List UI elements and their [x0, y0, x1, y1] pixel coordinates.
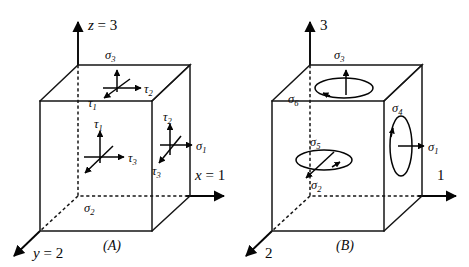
axis1-label: 1: [437, 167, 445, 183]
z-axis-label: z = 3: [87, 17, 117, 33]
sigma6-label-b: σ6: [288, 92, 299, 108]
caption-b: (B): [336, 238, 354, 254]
axis2-label: 2: [265, 245, 273, 261]
tau3-label-a-front: τ3: [128, 151, 137, 167]
x-axis-label: x = 1: [194, 167, 225, 183]
sigma3-label-b: σ3: [334, 48, 344, 64]
axis3-label: 3: [320, 17, 328, 33]
tau2-label-a: τ2: [144, 82, 153, 98]
sigma4-label-b: σ4: [392, 101, 403, 117]
tau3-label-a-right: τ3: [152, 164, 161, 180]
stress-cube-figure: z = 3 x = 1 y = 2 σ3 τ2 τ1 τ1 τ3 τ2 τ3: [0, 0, 469, 267]
sigma5-label-b: σ5: [310, 135, 320, 151]
label-canvas: z = 3 x = 1 y = 2 σ3 τ2 τ1 τ1 τ3 τ2 τ3: [0, 0, 469, 267]
sigma2-label-a: σ2: [84, 201, 95, 217]
sigma1-label-b: σ1: [428, 140, 438, 156]
caption-a: (A): [103, 238, 121, 254]
sigma3-label-a: σ3: [105, 48, 115, 64]
tau2-label-a-right: τ2: [163, 110, 172, 126]
sigma1-label-a: σ1: [196, 139, 206, 155]
y-axis-label: y = 2: [31, 245, 63, 261]
sigma2-label-b: σ2: [311, 178, 322, 194]
tau1-label-a-top: τ1: [88, 96, 97, 112]
tau1-label-a-front: τ1: [94, 117, 103, 133]
